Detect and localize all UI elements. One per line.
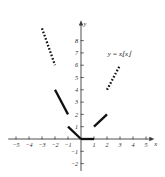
y-tick-label: 2 bbox=[75, 111, 78, 118]
x-tick-label: −4 bbox=[25, 141, 32, 148]
curve-segment bbox=[55, 90, 68, 115]
y-tick-label: 5 bbox=[75, 74, 78, 81]
y-tick-label: −2 bbox=[71, 160, 78, 167]
function-plot-figure: yx−5−4−3−2−112345−2−112345678 y = x⌊x⌋ bbox=[0, 0, 165, 177]
y-axis-name-label: y bbox=[83, 20, 87, 27]
axes-group bbox=[8, 20, 154, 171]
x-tick-label: 5 bbox=[144, 141, 147, 148]
curve-segment-dotted bbox=[42, 28, 55, 65]
y-tick-label: 7 bbox=[75, 49, 79, 56]
y-tick-label: 6 bbox=[75, 61, 79, 68]
function-equation-label: y = x⌊x⌋ bbox=[107, 50, 133, 58]
x-tick-label: −3 bbox=[38, 141, 45, 148]
plot-canvas: yx−5−4−3−2−112345−2−112345678 y = x⌊x⌋ bbox=[0, 0, 165, 177]
x-tick-label: 2 bbox=[105, 141, 108, 148]
y-tick-label: 1 bbox=[75, 123, 78, 130]
x-tick-label: 3 bbox=[117, 141, 121, 148]
tick-labels-group: yx−5−4−3−2−112345−2−112345678 bbox=[12, 20, 157, 166]
y-tick-label: 3 bbox=[74, 98, 78, 105]
curve-segment bbox=[94, 114, 107, 126]
x-tick-label: 1 bbox=[92, 141, 95, 148]
annotation-group: y = x⌊x⌋ bbox=[107, 50, 133, 58]
y-tick-label: 8 bbox=[75, 37, 79, 44]
curve-segment-dotted bbox=[107, 65, 120, 90]
y-tick-label: −1 bbox=[71, 148, 78, 155]
x-tick-label: −2 bbox=[51, 141, 58, 148]
y-tick-label: 4 bbox=[75, 86, 78, 93]
x-tick-label: 4 bbox=[131, 141, 134, 148]
x-tick-label: −5 bbox=[12, 141, 19, 148]
x-axis-name-label: x bbox=[153, 140, 157, 147]
